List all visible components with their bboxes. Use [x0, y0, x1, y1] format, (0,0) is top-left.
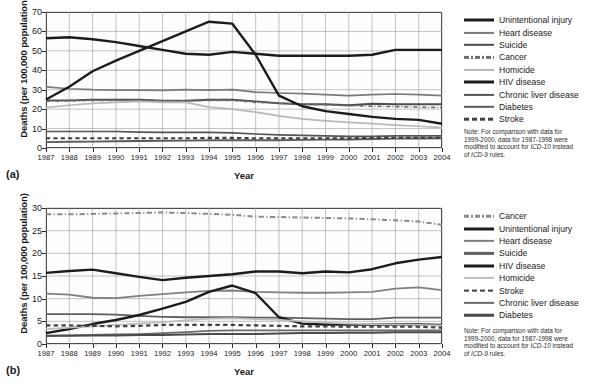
y-tick-mark [42, 31, 46, 32]
chart-panel-a: Deaths (per 100,000 population) 01020304… [0, 0, 600, 195]
legend-item[interactable]: Suicide [464, 247, 598, 259]
x-tick-label: 1998 [294, 153, 311, 162]
x-tick-mark [93, 148, 94, 152]
series-line [46, 318, 442, 329]
legend-item[interactable]: Diabetes [464, 309, 598, 321]
x-tick-label: 1993 [177, 153, 194, 162]
x-tick-mark [419, 148, 420, 152]
legend-a: Unintentional injuryHeart diseaseSuicide… [464, 14, 598, 126]
x-tick-label: 1987 [38, 153, 55, 162]
x-tick-label: 1990 [107, 153, 124, 162]
y-tick-mark [42, 231, 46, 232]
x-tick-label: 1997 [270, 349, 287, 358]
x-tick-label: 2001 [364, 153, 381, 162]
x-tick-mark [69, 148, 70, 152]
x-tick-label: 1996 [247, 349, 264, 358]
legend-item[interactable]: Unintentional injury [464, 222, 598, 234]
x-tick-label: 1995 [224, 349, 241, 358]
legend-item[interactable]: Heart disease [464, 235, 598, 247]
legend-label: Homicide [499, 65, 535, 75]
x-tick-mark [256, 344, 257, 348]
x-tick-label: 1998 [294, 349, 311, 358]
x-tick-mark [279, 344, 280, 348]
y-tick-mark [42, 70, 46, 71]
legend-item[interactable]: Stroke [464, 113, 598, 125]
y-tick-label: 10 [32, 294, 42, 304]
x-tick-mark [232, 148, 233, 152]
x-tick-mark [395, 344, 396, 348]
y-tick-mark [42, 253, 46, 254]
y-tick-label: 30 [32, 85, 42, 95]
x-tick-label: 1989 [84, 349, 101, 358]
legend-swatch-icon [464, 286, 494, 295]
legend-label: HIV disease [499, 77, 545, 87]
x-tick-mark [46, 148, 47, 152]
y-axis-title-b: Deaths (per 100,000 population) [18, 189, 29, 339]
legend-item[interactable]: Homicide [464, 272, 598, 284]
legend-label: Heart disease [499, 236, 552, 246]
series-line [46, 213, 442, 225]
x-tick-label: 1993 [177, 349, 194, 358]
x-tick-mark [69, 344, 70, 348]
x-tick-mark [442, 344, 443, 348]
x-tick-mark [209, 148, 210, 152]
x-tick-mark [372, 148, 373, 152]
x-tick-label: 1991 [131, 153, 148, 162]
x-tick-mark [326, 344, 327, 348]
legend-swatch-icon [464, 90, 494, 99]
note-line: Note: For comparison with data for [464, 327, 600, 335]
legend-item[interactable]: Diabetes [464, 101, 598, 113]
x-tick-mark [116, 344, 117, 348]
legend-item[interactable]: Homicide [464, 64, 598, 76]
x-axis-title-a: Year [46, 170, 442, 181]
note-line: of ICD-9 rules. [464, 151, 600, 159]
x-tick-mark [419, 344, 420, 348]
note-line: modified to account for ICD-10 instead [464, 342, 600, 350]
note-line: 1999-2000, data for 1987-1998 were [464, 335, 600, 343]
y-tick-label: 15 [32, 271, 42, 281]
legend-swatch-icon [464, 78, 494, 87]
x-tick-mark [46, 344, 47, 348]
legend-swatch-icon [464, 224, 494, 233]
y-tick-mark [42, 109, 46, 110]
legend-item[interactable]: Cancer [464, 210, 598, 222]
x-tick-mark [349, 344, 350, 348]
legend-label: Homicide [499, 273, 535, 283]
legend-label: Chronic liver disease [499, 298, 579, 308]
y-tick-mark [42, 299, 46, 300]
legend-item[interactable]: Heart disease [464, 26, 598, 38]
legend-swatch-icon [464, 249, 494, 258]
y-tick-label: 70 [32, 7, 42, 17]
x-tick-label: 2004 [434, 153, 451, 162]
x-tick-label: 1991 [131, 349, 148, 358]
legend-swatch-icon [464, 53, 494, 62]
legend-item[interactable]: Chronic liver disease [464, 88, 598, 100]
x-tick-mark [302, 148, 303, 152]
x-tick-mark [372, 344, 373, 348]
legend-item[interactable]: Cancer [464, 51, 598, 63]
legend-label: Heart disease [499, 28, 552, 38]
legend-item[interactable]: Stroke [464, 284, 598, 296]
x-tick-label: 2000 [340, 349, 357, 358]
legend-label: Chronic liver disease [499, 90, 579, 100]
y-axis-title-a: Deaths (per 100,000 population) [18, 0, 29, 143]
legend-item[interactable]: HIV disease [464, 260, 598, 272]
note-line: modified to account for ICD-10 instead [464, 143, 600, 151]
x-tick-label: 1988 [61, 349, 78, 358]
x-tick-label: 2002 [387, 153, 404, 162]
legend-swatch-icon [464, 311, 494, 320]
legend-item[interactable]: Unintentional injury [464, 14, 598, 26]
y-tick-label: 25 [32, 226, 42, 236]
legend-swatch-icon [464, 28, 494, 37]
series-lines-a [46, 12, 442, 148]
x-tick-mark [209, 344, 210, 348]
legend-item[interactable]: HIV disease [464, 76, 598, 88]
x-tick-label: 1992 [154, 153, 171, 162]
x-tick-mark [279, 148, 280, 152]
legend-item[interactable]: Suicide [464, 39, 598, 51]
series-line [46, 87, 442, 96]
legend-label: Suicide [499, 40, 527, 50]
legend-item[interactable]: Chronic liver disease [464, 297, 598, 309]
y-tick-mark [42, 321, 46, 322]
x-tick-label: 1992 [154, 349, 171, 358]
